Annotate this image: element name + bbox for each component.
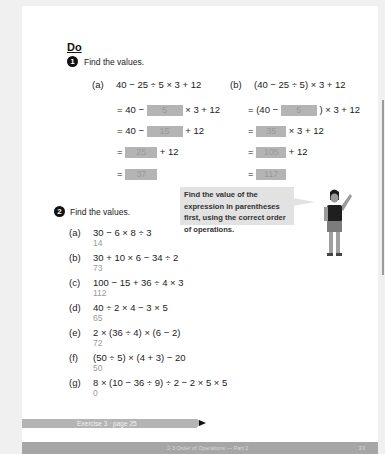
expression-text: 40 − 25 ÷ 5 × 3 + 12 xyxy=(116,79,201,90)
answer-box[interactable]: 37 xyxy=(125,169,157,180)
answer-box[interactable]: 5 xyxy=(147,105,183,116)
expression-text: (40 − 25 ÷ 5) × 3 + 12 xyxy=(254,79,346,90)
step-prefix: = xyxy=(117,146,123,157)
expression-text: 30 − 6 × 8 ÷ 3 xyxy=(93,227,152,238)
question-number-badge: 2 xyxy=(54,206,65,217)
q1b-step-2: = 35 × 3 + 12 xyxy=(248,125,324,137)
step-suffix: ) × 3 + 12 xyxy=(319,104,360,115)
answer-text: 14 xyxy=(69,238,227,248)
answer-box[interactable]: 117 xyxy=(256,169,286,180)
arrow-right-icon xyxy=(199,420,206,426)
q1b-step-3: = 105 + 12 xyxy=(248,146,308,158)
step-suffix: + 12 xyxy=(289,146,308,157)
answer-box[interactable]: 15 xyxy=(147,126,183,137)
expression-text: (50 ÷ 5) × (4 + 3) − 20 xyxy=(93,352,186,363)
step-prefix: = xyxy=(117,168,123,179)
q2-item: (c)100 − 15 + 36 ÷ 4 × 3 112 xyxy=(69,277,227,302)
scrollbar[interactable] xyxy=(382,100,384,275)
hint-callout: Find the value of the expression in pare… xyxy=(180,187,294,225)
step-prefix: = 40 − xyxy=(117,125,144,136)
q1b-step-4: = 117 xyxy=(248,168,286,180)
page-number: 33 xyxy=(358,442,365,454)
step-suffix: × 3 + 12 xyxy=(185,104,220,115)
q1a-step-2: = 40 − 15 + 12 xyxy=(117,125,204,137)
expression-text: 8 × (10 − 36 ÷ 9) ÷ 2 − 2 × 5 × 5 xyxy=(93,377,227,388)
part-label: (b) xyxy=(69,252,93,263)
step-prefix: = xyxy=(248,146,254,157)
step-prefix: = 40 − xyxy=(117,104,144,115)
answer-box[interactable]: 35 xyxy=(256,126,286,137)
part-label: (e) xyxy=(69,327,93,338)
q2-item: (a)30 − 6 × 8 ÷ 3 14 xyxy=(69,227,227,252)
q2-item: (d)40 ÷ 2 × 4 − 3 × 5 65 xyxy=(69,302,227,327)
answer-text: 72 xyxy=(69,338,227,348)
q1a-step-4: = 37 xyxy=(117,168,157,180)
step-suffix: + 12 xyxy=(160,146,179,157)
callout-pointer xyxy=(293,198,315,206)
answer-box[interactable]: 25 xyxy=(125,147,157,158)
expression-text: 30 + 10 × 6 − 34 ÷ 2 xyxy=(93,252,178,263)
footer-title: 2-3 Order of Operations — Part 2 xyxy=(167,442,248,454)
part-label: (b) xyxy=(230,79,254,90)
q2-item: (e)2 × (36 ÷ 4) × (6 − 2) 72 xyxy=(69,327,227,352)
expression-text: 40 ÷ 2 × 4 − 3 × 5 xyxy=(93,302,168,313)
q2-item: (f)(50 ÷ 5) × (4 + 3) − 20 50 xyxy=(69,352,227,377)
question-prompt: Find the values. xyxy=(70,207,130,217)
question-number-badge: 1 xyxy=(67,56,78,67)
answer-text: 73 xyxy=(69,263,227,273)
section-heading: Do xyxy=(67,41,82,53)
q1b-step-1: = (40 − 5 ) × 3 + 12 xyxy=(248,104,360,116)
part-label: (g) xyxy=(69,377,93,388)
exercise-link[interactable]: Exercise 3 · page 25 xyxy=(22,419,197,428)
q1a-step-1: = 40 − 5 × 3 + 12 xyxy=(117,104,220,116)
part-label: (c) xyxy=(69,277,93,288)
step-prefix: = xyxy=(248,168,254,179)
answer-text: 0 xyxy=(69,388,227,398)
part-label: (a) xyxy=(69,227,93,238)
part-label: (a) xyxy=(92,79,116,90)
q1b-expression: (b)(40 − 25 ÷ 5) × 3 + 12 xyxy=(230,79,346,90)
q1a-expression: (a)40 − 25 ÷ 5 × 3 + 12 xyxy=(92,79,201,90)
student-figure-icon xyxy=(318,188,354,260)
answer-text: 50 xyxy=(69,363,227,373)
q1a-step-3: = 25 + 12 xyxy=(117,146,179,158)
question-prompt: Find the values. xyxy=(84,57,144,67)
expression-text: 100 − 15 + 36 ÷ 4 × 3 xyxy=(93,277,184,288)
page-footer: 2-3 Order of Operations — Part 2 33 xyxy=(22,442,378,454)
answer-box[interactable]: 5 xyxy=(281,105,317,116)
step-suffix: × 3 + 12 xyxy=(289,125,324,136)
part-label: (f) xyxy=(69,352,93,363)
step-suffix: + 12 xyxy=(185,125,204,136)
student-illustration xyxy=(318,188,354,260)
answer-text: 65 xyxy=(69,313,227,323)
step-prefix: = xyxy=(248,125,254,136)
answer-text: 112 xyxy=(69,288,227,298)
part-label: (d) xyxy=(69,302,93,313)
q2-item: (g)8 × (10 − 36 ÷ 9) ÷ 2 − 2 × 5 × 5 0 xyxy=(69,377,227,402)
q2-item-list: (a)30 − 6 × 8 ÷ 3 14 (b)30 + 10 × 6 − 34… xyxy=(69,227,227,402)
q2-item: (b)30 + 10 × 6 − 34 ÷ 2 73 xyxy=(69,252,227,277)
expression-text: 2 × (36 ÷ 4) × (6 − 2) xyxy=(93,327,180,338)
answer-box[interactable]: 105 xyxy=(256,147,286,158)
step-prefix: = (40 − xyxy=(248,104,278,115)
